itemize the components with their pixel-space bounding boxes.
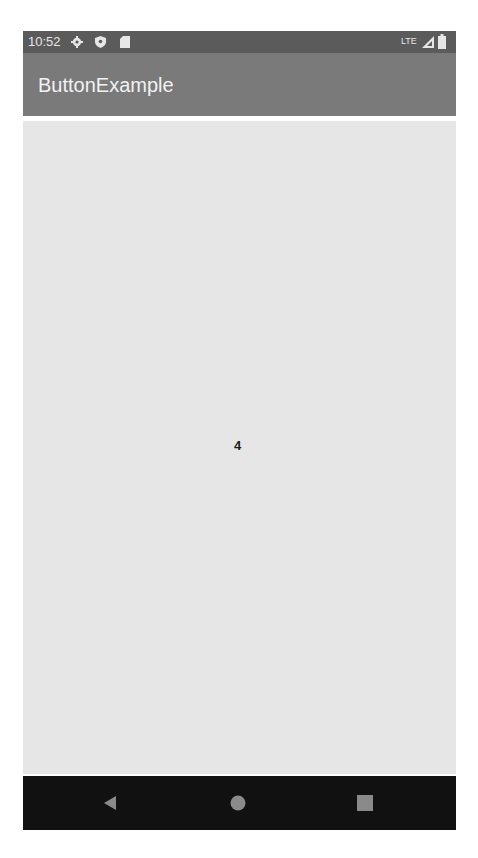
shield-icon [95, 36, 106, 51]
counter-display: 4 [23, 121, 456, 774]
status-time: 10:52 [28, 34, 61, 49]
phone-screen: 10:52 LTE ButtonExample 4 [23, 31, 456, 830]
app-bar: ButtonExample [23, 53, 456, 116]
network-type: LTE [401, 36, 417, 46]
status-bar: 10:52 LTE [23, 31, 456, 53]
main-content: 4 [23, 121, 456, 774]
home-icon [229, 794, 247, 812]
battery-icon [438, 34, 446, 52]
recents-button[interactable] [356, 794, 374, 812]
settings-icon [71, 36, 83, 51]
back-button[interactable] [101, 794, 119, 812]
navigation-bar [23, 776, 456, 830]
recents-icon [356, 794, 374, 812]
counter-value: 4 [234, 438, 241, 453]
home-button[interactable] [229, 794, 247, 812]
signal-icon [422, 36, 434, 51]
app-title: ButtonExample [38, 74, 174, 97]
back-icon [101, 794, 119, 812]
sd-card-icon [120, 36, 130, 51]
